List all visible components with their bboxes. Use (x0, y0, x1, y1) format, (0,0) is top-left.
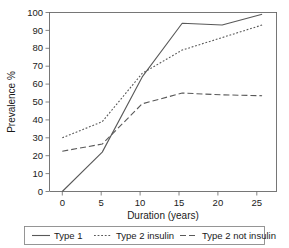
series-line-type-1 (62, 14, 262, 191)
x-tick-label-0: 0 (60, 197, 65, 208)
legend-label-type-1: Type 1 (54, 230, 83, 241)
series-lines (62, 14, 262, 191)
y-tick-label-100: 100 (27, 7, 43, 18)
y-tick-label-60: 60 (32, 78, 43, 89)
x-axis-tick-labels: 0 5 10 15 20 25 (60, 197, 262, 208)
plot-frame (50, 12, 278, 192)
prevalence-vs-duration-line-chart: 0 10 20 30 40 50 60 70 80 90 100 0 5 10 … (0, 0, 289, 248)
x-tick-label-20: 20 (213, 197, 224, 208)
chart-figure: 0 10 20 30 40 50 60 70 80 90 100 0 5 10 … (0, 0, 289, 248)
legend-label-type-2-insulin: Type 2 insulin (116, 230, 174, 241)
y-tick-label-10: 10 (32, 168, 43, 179)
y-tick-label-0: 0 (38, 186, 43, 197)
x-axis-title: Duration (years) (127, 210, 199, 221)
y-tick-label-70: 70 (32, 60, 43, 71)
y-tick-label-40: 40 (32, 114, 43, 125)
y-tick-label-80: 80 (32, 42, 43, 53)
x-tick-label-25: 25 (252, 197, 263, 208)
series-line-type-2-not-insulin (62, 93, 262, 151)
y-axis-ticks (46, 13, 50, 192)
legend: Type 1 Type 2 insulin Type 2 not insulin (25, 227, 276, 245)
legend-label-type-2-not-insulin: Type 2 not insulin (202, 230, 276, 241)
y-tick-label-50: 50 (32, 96, 43, 107)
x-axis-ticks (62, 192, 256, 196)
series-line-type-2-insulin-visible (62, 25, 262, 138)
x-tick-label-5: 5 (99, 197, 104, 208)
y-axis-tick-labels: 0 10 20 30 40 50 60 70 80 90 100 (27, 7, 43, 197)
x-tick-label-15: 15 (174, 197, 185, 208)
y-tick-label-20: 20 (32, 150, 43, 161)
y-tick-label-30: 30 (32, 132, 43, 143)
y-axis-title: Prevalence % (6, 71, 17, 133)
y-tick-label-90: 90 (32, 25, 43, 36)
x-tick-label-10: 10 (135, 197, 146, 208)
